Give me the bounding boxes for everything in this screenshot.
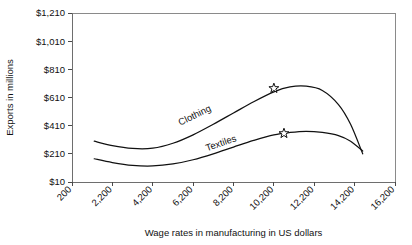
x-tick-label: 6,200 xyxy=(170,184,195,209)
y-tick-label: $1,210 xyxy=(36,7,65,18)
y-tick-label: $810 xyxy=(44,64,65,75)
plot-frame xyxy=(72,13,395,182)
x-tick-label: 8,200 xyxy=(210,184,235,209)
x-tick-label: 14,200 xyxy=(328,184,356,212)
chart-canvas: $10$210$410$610$810$1,010$1,2102002,2004… xyxy=(0,0,412,245)
y-tick-label: $210 xyxy=(44,148,65,159)
x-tick-label: 12,200 xyxy=(287,184,315,212)
series-label-textiles: Textiles xyxy=(204,132,238,153)
y-tick-label: $1,010 xyxy=(36,36,65,47)
textiles-peak-star xyxy=(279,128,289,137)
y-tick-label: $410 xyxy=(44,120,65,131)
x-axis-title: Wage rates in manufacturing in US dollar… xyxy=(145,227,323,238)
y-axis-title: Exports in millions xyxy=(4,59,15,136)
x-tick-label: 10,200 xyxy=(247,184,275,212)
y-tick-label: $610 xyxy=(44,92,65,103)
x-tick-label: 4,200 xyxy=(130,184,155,209)
exports-vs-wage-rates-chart: $10$210$410$610$810$1,010$1,2102002,2004… xyxy=(0,0,412,245)
series-label-clothing: Clothing xyxy=(176,102,212,127)
x-tick-label: 16,200 xyxy=(368,184,396,212)
x-tick-label: 2,200 xyxy=(89,184,114,209)
